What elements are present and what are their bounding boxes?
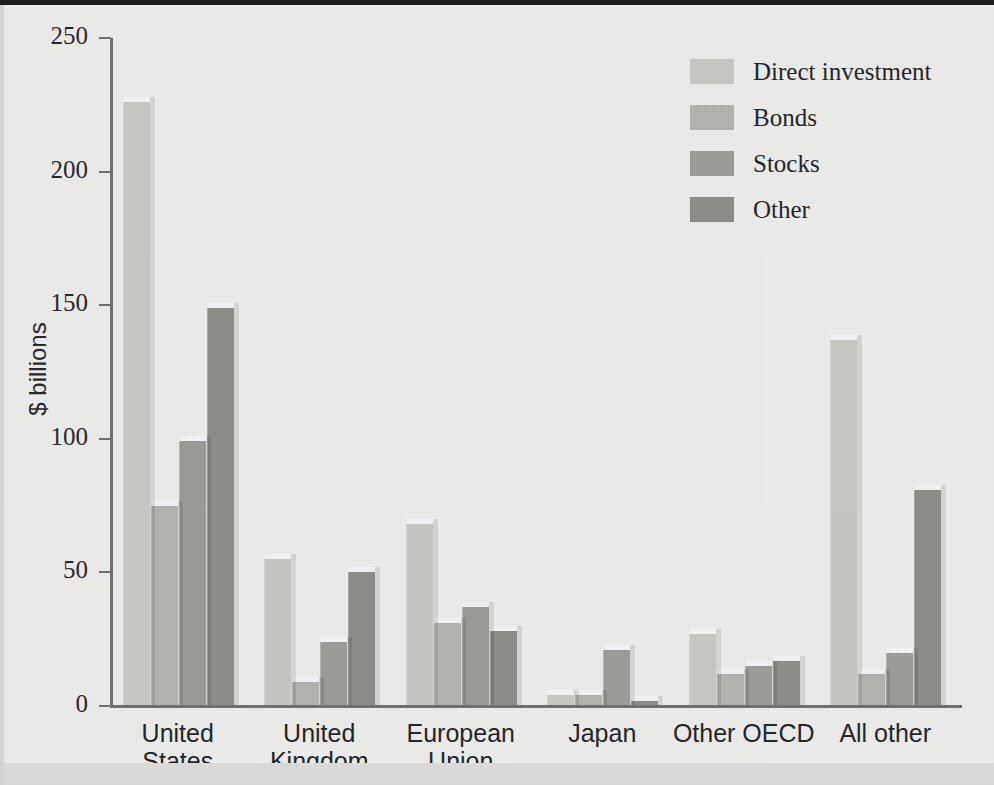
bar-group <box>547 38 657 706</box>
bar-side-shadow <box>375 567 380 706</box>
bar[interactable] <box>490 631 517 706</box>
bar-top-highlight <box>152 501 178 506</box>
bar[interactable] <box>207 308 234 706</box>
bar-top-highlight <box>576 690 602 695</box>
legend-swatch <box>690 197 734 222</box>
chart-page: 250200150100500 $ billions UnitedStatesU… <box>0 0 994 785</box>
legend-swatch <box>690 151 734 176</box>
bar-top-highlight <box>632 696 658 701</box>
bar-top-highlight <box>774 656 800 661</box>
bar-side-shadow <box>941 485 946 706</box>
scan-edge-top <box>0 0 994 5</box>
bar[interactable] <box>151 506 178 706</box>
bar-side-shadow <box>461 618 466 706</box>
bar-side-shadow <box>602 690 607 706</box>
bar-side-shadow <box>150 97 155 706</box>
y-tick-mark <box>99 171 111 173</box>
bar-side-shadow <box>178 501 183 706</box>
bar-side-shadow <box>885 669 890 706</box>
bar[interactable] <box>886 653 913 706</box>
legend-item[interactable]: Stocks <box>690 144 931 182</box>
y-tick-label: 0 <box>8 691 88 716</box>
bar-top-highlight <box>887 648 913 653</box>
y-tick-mark <box>99 304 111 306</box>
bar-side-shadow <box>800 656 805 706</box>
bar[interactable] <box>745 666 772 706</box>
bar-top-highlight <box>321 637 347 642</box>
bar-side-shadow <box>517 626 522 706</box>
bar-top-highlight <box>746 661 772 666</box>
bar[interactable] <box>717 674 744 706</box>
bar-top-highlight <box>859 669 885 674</box>
bar-top-highlight <box>349 567 375 572</box>
bar[interactable] <box>462 607 489 706</box>
bar[interactable] <box>179 441 206 706</box>
bar-top-highlight <box>265 554 291 559</box>
legend-label: Bonds <box>753 105 817 130</box>
bar-side-shadow <box>574 690 579 706</box>
bar-side-shadow <box>630 645 635 706</box>
bar-top-highlight <box>180 436 206 441</box>
x-axis-line <box>110 705 962 708</box>
bar-side-shadow <box>319 677 324 706</box>
bar-side-shadow <box>234 303 239 706</box>
chart-legend: Direct investmentBondsStocksOther <box>690 52 931 236</box>
legend-item[interactable]: Bonds <box>690 98 931 136</box>
bar-top-highlight <box>435 618 461 623</box>
y-tick-label: 50 <box>8 557 88 582</box>
bar-top-highlight <box>491 626 517 631</box>
bar-top-highlight <box>548 690 574 695</box>
bar-group <box>406 38 516 706</box>
bar-side-shadow <box>291 554 296 706</box>
bar-top-highlight <box>407 519 433 524</box>
bar-top-highlight <box>915 485 941 490</box>
bar-side-shadow <box>716 629 721 706</box>
bar-top-highlight <box>831 335 857 340</box>
legend-swatch <box>690 105 734 130</box>
bar[interactable] <box>264 559 291 706</box>
bar[interactable] <box>914 490 941 706</box>
legend-item[interactable]: Direct investment <box>690 52 931 90</box>
category-label: All other <box>785 719 985 747</box>
bar[interactable] <box>773 661 800 706</box>
legend-item[interactable]: Other <box>690 190 931 228</box>
legend-label: Stocks <box>753 151 820 176</box>
y-tick-label: 200 <box>8 157 88 182</box>
bar[interactable] <box>406 524 433 706</box>
bar-top-highlight <box>463 602 489 607</box>
bar[interactable] <box>830 340 857 706</box>
bar-group <box>123 38 233 706</box>
bar-top-highlight <box>690 629 716 634</box>
scan-edge-left <box>0 0 4 785</box>
bar[interactable] <box>858 674 885 706</box>
bar-side-shadow <box>206 436 211 706</box>
bar-side-shadow <box>347 637 352 706</box>
bar[interactable] <box>123 102 150 706</box>
bar-side-shadow <box>913 648 918 706</box>
bar-side-shadow <box>489 602 494 706</box>
bar[interactable] <box>348 572 375 706</box>
legend-label: Other <box>753 197 810 222</box>
y-axis-line <box>110 38 113 708</box>
y-tick-mark <box>99 438 111 440</box>
bar[interactable] <box>292 682 319 706</box>
bar[interactable] <box>434 623 461 706</box>
bar-top-highlight <box>293 677 319 682</box>
y-tick-mark <box>99 571 111 573</box>
bar-side-shadow <box>744 669 749 706</box>
bar-side-shadow <box>772 661 777 706</box>
category-label-line: All other <box>785 719 985 747</box>
bar-group <box>264 38 374 706</box>
bar[interactable] <box>689 634 716 706</box>
bar-top-highlight <box>208 303 234 308</box>
legend-swatch <box>690 59 734 84</box>
legend-label: Direct investment <box>753 59 931 84</box>
bar[interactable] <box>320 642 347 706</box>
y-tick-mark <box>99 705 111 707</box>
y-tick-mark <box>99 37 111 39</box>
y-axis-title: $ billions <box>24 289 52 449</box>
bar-top-highlight <box>124 97 150 102</box>
bar-top-highlight <box>718 669 744 674</box>
bar-side-shadow <box>433 519 438 706</box>
bar[interactable] <box>603 650 630 706</box>
